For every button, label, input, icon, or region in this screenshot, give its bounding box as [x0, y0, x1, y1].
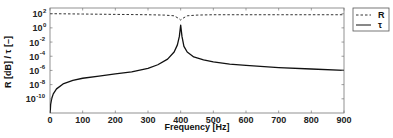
legend-label-tau: τ [378, 20, 382, 30]
svg-text:-4: -4 [40, 50, 46, 56]
svg-text:-2: -2 [40, 36, 46, 42]
svg-text:-10: -10 [36, 93, 45, 99]
svg-text:10: 10 [29, 52, 39, 62]
y-tick-label: 102 [33, 8, 48, 20]
svg-text:10: 10 [29, 38, 39, 48]
svg-text:10: 10 [29, 80, 39, 90]
y-tick-label: 10-4 [29, 50, 46, 62]
svg-text:2: 2 [43, 8, 47, 14]
svg-text:0: 0 [43, 22, 47, 28]
x-tick-label: 700 [271, 115, 286, 125]
legend: R τ [353, 8, 389, 31]
svg-text:10: 10 [33, 9, 43, 19]
y-tick-label: 100 [33, 22, 48, 34]
x-tick-label: 600 [238, 115, 253, 125]
svg-text:-8: -8 [40, 79, 46, 85]
x-tick-label: 900 [336, 115, 351, 125]
y-tick-label: 10-8 [29, 79, 46, 91]
svg-text:10: 10 [29, 66, 39, 76]
svg-text:-6: -6 [40, 64, 46, 70]
svg-text:10: 10 [33, 23, 43, 33]
y-axis-title: R [dB] / τ [–] [3, 36, 13, 88]
x-tick-label: 300 [140, 115, 155, 125]
legend-label-r: R [378, 10, 385, 20]
x-tick-label: 200 [108, 115, 123, 125]
y-tick-label: 10-6 [29, 64, 46, 76]
x-axis-title: Frequency [Hz] [164, 122, 229, 132]
plot-area [50, 8, 344, 113]
x-tick-label: 100 [75, 115, 90, 125]
x-tick-label: 0 [47, 115, 52, 125]
y-tick-label: 10-2 [29, 36, 46, 48]
y-tick-label: 10-10 [26, 93, 46, 105]
svg-text:10: 10 [26, 94, 36, 104]
plot-frame [50, 8, 344, 113]
x-tick-label: 800 [304, 115, 319, 125]
chart: 0100200300400500600700800900 10210010-21… [0, 0, 393, 138]
